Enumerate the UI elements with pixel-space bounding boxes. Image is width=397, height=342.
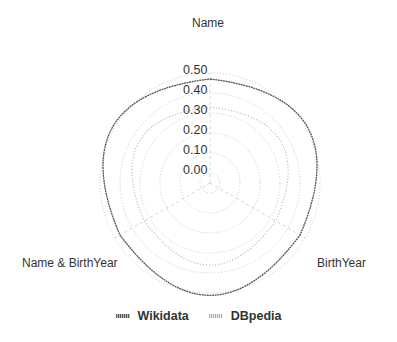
radial-tick-label: 0.10 [183,143,207,157]
series-dbpedia [132,107,288,265]
legend-label-dbpedia: DBpedia [231,309,282,323]
radial-tick-label: 0.20 [183,123,207,137]
legend-item-wikidata[interactable]: Wikidata [116,309,189,323]
radar-series [103,79,317,295]
legend-item-dbpedia[interactable]: DBpedia [209,309,282,323]
radial-tick-label: 0.40 [183,83,207,97]
dbpedia-swatch-icon [209,314,223,318]
wikidata-swatch-icon [116,314,130,318]
axis-label-birthyear: BirthYear [317,256,366,270]
legend-label-wikidata: Wikidata [138,309,189,323]
axis-label-name-birthyear: Name & BirthYear [22,256,118,270]
radar-grid [100,73,320,293]
series-wikidata [103,79,317,295]
legend: Wikidata DBpedia [0,309,397,323]
radial-tick-label: 0.30 [183,103,207,117]
radial-tick-label: 0.50 [183,63,207,77]
radial-tick-label: 0.00 [183,163,207,177]
axis-label-name: Name [192,16,224,30]
